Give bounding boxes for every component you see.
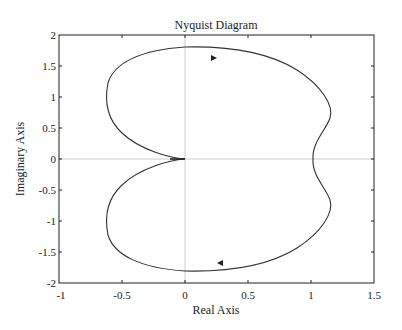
svg-text:1.5: 1.5 [42,60,56,72]
y-tick-labels: 2 1.5 1 0.5 0 -0.5 -1 -1.5 -2 [39,29,57,289]
svg-text:-0.5: -0.5 [113,289,131,301]
svg-text:2: 2 [51,29,57,41]
x-tick-labels: -1 -0.5 0 0.5 1 1.5 [56,289,381,301]
svg-text:-1.5: -1.5 [39,246,57,258]
svg-text:1: 1 [51,91,57,103]
svg-text:1: 1 [308,289,314,301]
arrow-right-icon [211,55,217,61]
svg-text:-0.5: -0.5 [39,184,57,196]
svg-text:0.5: 0.5 [42,122,56,134]
svg-text:0.5: 0.5 [241,289,255,301]
arrow-left-icon [217,260,223,266]
svg-text:1.5: 1.5 [367,289,381,301]
y-axis-label: Imaginary Axis [13,122,27,197]
svg-text:0: 0 [182,289,188,301]
nyquist-chart: Nyquist Diagram Real Axis Imaginary Axis… [0,0,402,330]
svg-text:0: 0 [51,153,57,165]
svg-text:-1: -1 [56,289,65,301]
svg-text:-2: -2 [47,277,56,289]
x-axis-label: Real Axis [193,303,240,317]
svg-text:-1: -1 [47,215,56,227]
chart-title: Nyquist Diagram [175,18,259,32]
